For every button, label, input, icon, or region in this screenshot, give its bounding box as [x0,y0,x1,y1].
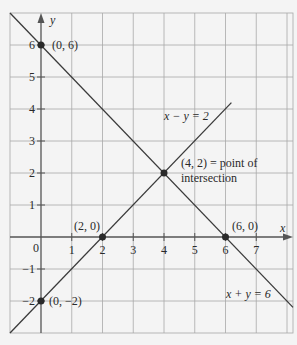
label-point-0-m2: (0, −2) [49,294,82,308]
equation-label-x-minus-y: x − y = 2 [163,109,209,123]
svg-text:−2: −2 [22,294,35,308]
label-point-0-6: (0, 6) [52,38,78,52]
x-tick-labels: 1 2 3 4 5 6 7 0 [33,241,259,257]
y-axis-label: y [49,13,56,27]
svg-text:1: 1 [29,198,35,212]
x-axis-label: x [279,221,286,235]
point-6-0 [222,234,229,241]
equation-label-x-plus-y: x + y = 6 [225,287,271,301]
svg-text:2: 2 [100,243,106,257]
svg-text:5: 5 [29,70,35,84]
svg-text:5: 5 [192,243,198,257]
svg-text:1: 1 [69,243,75,257]
label-point-2-0: (2, 0) [74,219,100,233]
svg-text:3: 3 [29,134,35,148]
svg-text:4: 4 [29,102,35,116]
svg-text:4: 4 [161,243,167,257]
svg-text:2: 2 [29,166,35,180]
label-point-6-0: (6, 0) [232,219,258,233]
svg-text:6: 6 [223,243,229,257]
svg-text:−1: −1 [22,262,35,276]
label-point-4-2-line2: intersection [181,171,237,185]
y-axis-arrow-icon [38,13,45,23]
point-4-2 [161,170,168,177]
label-point-4-2-line1: (4, 2) = point of [181,156,257,170]
svg-text:6: 6 [29,38,35,52]
svg-text:3: 3 [130,243,136,257]
point-0-m2 [38,298,45,305]
point-0-6 [38,42,45,49]
graph: y x 1 2 3 4 5 6 7 0 6 5 4 3 2 1 −1 −2 (0… [0,0,297,345]
point-2-0 [99,234,106,241]
svg-text:7: 7 [253,243,259,257]
origin-label: 0 [33,241,39,255]
grid [10,13,293,333]
